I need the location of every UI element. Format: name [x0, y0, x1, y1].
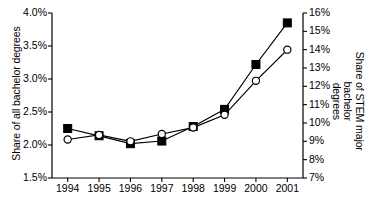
- data-point-1995: [95, 131, 102, 138]
- data-point-2001: [284, 46, 291, 53]
- data-point-2000: [252, 77, 259, 84]
- data-point-1994: [64, 136, 71, 143]
- data-point-1997: [158, 130, 165, 137]
- plot-area: [0, 0, 370, 207]
- data-point-2000: [252, 60, 260, 68]
- data-point-2001: [283, 19, 291, 27]
- chart-container: Share of all bachelor degrees Share of S…: [0, 0, 370, 207]
- data-point-1997: [158, 137, 166, 145]
- data-point-1996: [127, 138, 134, 145]
- data-point-1998: [190, 124, 197, 131]
- data-point-1999: [221, 111, 228, 118]
- data-point-1994: [64, 125, 72, 133]
